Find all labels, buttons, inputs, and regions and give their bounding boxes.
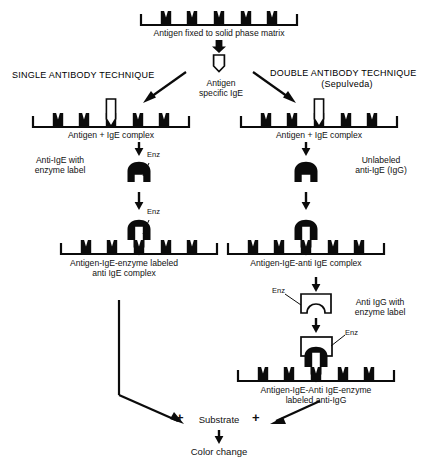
left-complex-antigen-ige [33, 99, 189, 127]
split-label-antigen: Antigen [206, 78, 235, 89]
right-label-anti-igg-line1: Anti IgG with [356, 297, 405, 308]
substrate-label: Substrate [199, 415, 240, 426]
plus-sign-left: + [176, 413, 184, 423]
right-label-unlabeled-line1: Unlabeled [362, 155, 401, 166]
right-enzyme-tag-free: Enz [272, 286, 285, 296]
top-solid-phase-matrix [141, 11, 297, 25]
title-double-antibody-subtitle: (Sepulveda) [321, 79, 372, 90]
left-enzyme-tag-free: Enz [147, 150, 160, 160]
title-single-antibody-technique: SINGLE ANTIBODY TECHNIQUE [12, 70, 154, 81]
right-arrow-to-bound [302, 192, 311, 210]
left-caption-final-line1: Antigen-IgE-enzyme labeled [70, 258, 178, 269]
right-complex-antigen-ige [241, 99, 397, 127]
free-ige-molecule [214, 55, 225, 72]
left-arrow-to-reagent [135, 142, 144, 156]
plus-sign-right: + [252, 413, 260, 423]
left-label-anti-ige-line2: enzyme label [35, 165, 86, 176]
title-double-antibody-technique: DOUBLE ANTIBODY TECHNIQUE [270, 68, 416, 79]
left-label-anti-ige-line1: Anti-IgE with [36, 155, 84, 166]
right-enzyme-tag-bound: Enz [345, 328, 358, 338]
right-label-anti-igg-line2: enzyme label [355, 307, 406, 318]
split-label-specific-ige: specific IgE [199, 88, 243, 99]
right-unlabeled-anti-ige-free [295, 162, 318, 182]
right-arrow-to-final [312, 318, 321, 333]
right-label-unlabeled-line2: anti-IgE (IgG) [355, 165, 407, 176]
arrow-top-to-ige [212, 40, 226, 53]
left-enzyme-tag-bound: Enz [147, 207, 160, 217]
right-caption-final-line1: Antigen-IgE-Anti IgE-enzyme [261, 385, 372, 396]
left-arrow-to-bound [135, 192, 144, 210]
right-arrow-to-reagent [302, 142, 311, 156]
arrow-substrate-to-result [215, 430, 224, 444]
right-caption-antigen-ige-complex: Antigen + IgE complex [276, 130, 362, 141]
left-caption-antigen-ige-complex: Antigen + IgE complex [68, 130, 154, 141]
right-caption-antiige-complex: Antigen-IgE-anti IgE complex [250, 258, 361, 269]
right-anti-igg-enzyme-free [285, 294, 331, 313]
left-anti-ige-enzyme-free [128, 162, 151, 182]
right-caption-final-line2: labeled anti-IgG [286, 395, 347, 406]
elisa-technique-diagram: Antigen fixed to solid phase matrix SING… [0, 0, 439, 464]
left-caption-final-line2: anti IgE complex [92, 268, 156, 279]
top-caption: Antigen fixed to solid phase matrix [154, 28, 285, 39]
left-branch-path-to-substrate [119, 300, 184, 424]
color-change-label: Color change [191, 447, 248, 458]
right-arrow-to-antiigg [312, 277, 321, 292]
